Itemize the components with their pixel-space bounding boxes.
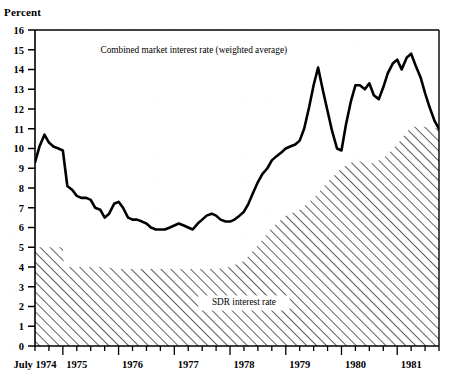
x-tick-label: 1981	[401, 359, 422, 370]
y-axis-ticks: 012345678910111213141516	[14, 25, 36, 352]
x-tick-label: 1979	[289, 359, 310, 370]
y-tick-label: 8	[19, 183, 24, 194]
y-tick-label: 9	[19, 163, 24, 174]
y-tick-label: 5	[19, 242, 24, 253]
y-tick-label: 14	[14, 64, 25, 75]
x-tick-label: July 1974	[14, 359, 58, 370]
y-tick-label: 6	[19, 222, 24, 233]
y-tick-label: 3	[19, 282, 24, 293]
chart-figure: Percent 012345678910111213141516 July 19…	[0, 0, 461, 377]
y-tick-label: 10	[14, 143, 25, 154]
y-tick-label: 2	[19, 301, 24, 312]
x-tick-label: 1976	[122, 359, 143, 370]
y-tick-label: 16	[14, 25, 25, 36]
x-tick-label: 1978	[233, 359, 254, 370]
y-tick-label: 15	[14, 45, 25, 56]
y-tick-label: 11	[14, 124, 24, 135]
y-tick-label: 7	[19, 203, 24, 214]
y-tick-label: 1	[19, 321, 24, 332]
y-tick-label: 0	[19, 341, 24, 352]
y-tick-label: 4	[19, 262, 25, 273]
x-tick-label: 1977	[178, 359, 199, 370]
x-tick-label: 1980	[345, 359, 366, 370]
chart-plot-area: 012345678910111213141516 July 1974197519…	[0, 0, 461, 377]
series-annotation-label: Combined market interest rate (weighted …	[100, 45, 287, 56]
x-axis-ticks: July 19741975197619771978197919801981	[14, 346, 439, 370]
x-tick-label: 1975	[66, 359, 87, 370]
series-annotation-label: SDR interest rate	[212, 297, 276, 307]
y-tick-label: 12	[14, 104, 25, 115]
y-tick-label: 13	[14, 84, 25, 95]
